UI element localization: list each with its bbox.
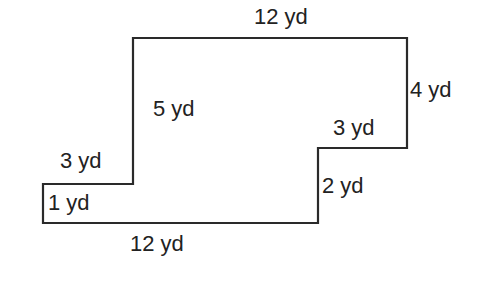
composite-figure-diagram: 12 yd 4 yd 5 yd 3 yd 3 yd 2 yd 1 yd 12 y… — [0, 0, 479, 281]
label-left-short-side: 1 yd — [48, 192, 90, 214]
label-top-side: 12 yd — [254, 6, 308, 28]
label-inner-vertical-side: 5 yd — [153, 98, 195, 120]
label-left-step: 3 yd — [60, 150, 102, 172]
label-right-side: 4 yd — [410, 79, 452, 101]
label-right-lower-side: 2 yd — [322, 175, 364, 197]
polygon-outline — [0, 0, 479, 281]
label-bottom-side: 12 yd — [130, 233, 184, 255]
label-right-step: 3 yd — [333, 117, 375, 139]
